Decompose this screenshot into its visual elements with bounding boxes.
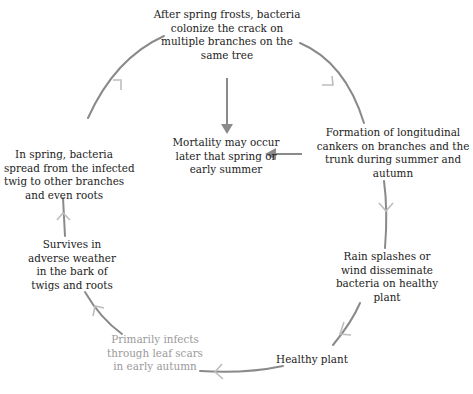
node-line: Primarily infects bbox=[100, 333, 210, 347]
arc-n4-to-n5 bbox=[200, 366, 283, 372]
solid-arrowhead-icon bbox=[221, 124, 233, 134]
open-arrowhead-icon bbox=[113, 80, 121, 90]
node-line: plant bbox=[332, 291, 442, 305]
node-line: Rain splashes or bbox=[332, 250, 442, 264]
node-line: autumn bbox=[313, 167, 473, 181]
node-line: Survives in bbox=[22, 238, 122, 252]
node-line: through leaf scars bbox=[100, 347, 210, 361]
node-line: wind disseminate bbox=[332, 264, 442, 278]
node-line: After spring frosts, bacteria bbox=[152, 8, 302, 22]
cycle-diagram: After spring frosts, bacteria colonize t… bbox=[0, 0, 473, 394]
node-healthy-plant: Healthy plant bbox=[262, 353, 362, 367]
node-line: adverse weather bbox=[22, 252, 122, 266]
arc-n2-to-n3 bbox=[384, 181, 386, 248]
node-line: early summer bbox=[166, 163, 286, 177]
node-line: Formation of longitudinal bbox=[313, 126, 473, 140]
open-arrowhead-icon bbox=[322, 76, 333, 85]
node-line: later that spring or bbox=[166, 150, 286, 164]
node-line: spread from the infected bbox=[4, 162, 124, 176]
node-line: twigs and roots bbox=[22, 279, 122, 293]
arc-n5-to-n6 bbox=[85, 292, 122, 334]
arc-n6-to-n7 bbox=[63, 198, 65, 236]
node-line: bacteria on healthy bbox=[332, 277, 442, 291]
node-line: trunk during summer and bbox=[313, 153, 473, 167]
node-line: twig to other branches bbox=[4, 175, 124, 189]
node-leaf-scar-infection: Primarily infects through leaf scars in … bbox=[100, 333, 210, 374]
node-mortality: Mortality may occur later that spring or… bbox=[166, 136, 286, 177]
node-line: in the bark of bbox=[22, 265, 122, 279]
node-survives-adverse-weather: Survives in adverse weather in the bark … bbox=[22, 238, 122, 292]
node-line: In spring, bacteria bbox=[4, 148, 124, 162]
node-line: colonize the crack on bbox=[152, 22, 302, 36]
node-line: Mortality may occur bbox=[166, 136, 286, 150]
node-line: same tree bbox=[152, 49, 302, 63]
node-rain-splash-dissemination: Rain splashes or wind disseminate bacter… bbox=[332, 250, 442, 304]
node-line: in early autumn bbox=[100, 360, 210, 374]
node-line: multiple branches on the bbox=[152, 35, 302, 49]
node-line: cankers on branches and the bbox=[313, 140, 473, 154]
node-line: Healthy plant bbox=[262, 353, 362, 367]
arc-n3-to-n4 bbox=[333, 303, 360, 345]
node-canker-formation: Formation of longitudinal cankers on bra… bbox=[313, 126, 473, 180]
node-line: and even roots bbox=[4, 189, 124, 203]
node-spring-spread: In spring, bacteria spread from the infe… bbox=[4, 148, 124, 202]
node-spring-frost-colonization: After spring frosts, bacteria colonize t… bbox=[152, 8, 302, 62]
